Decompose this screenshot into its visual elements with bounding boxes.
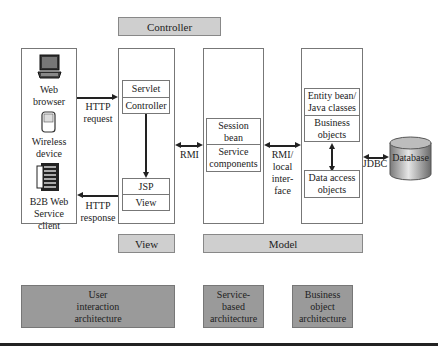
view-box: View <box>122 194 170 211</box>
rmi-label: RMI <box>175 149 204 161</box>
controller-box: Controller <box>122 97 170 114</box>
rmi-local-line4: face <box>264 185 301 197</box>
http-request-line2: request <box>78 113 118 125</box>
jdbc-label: JDBC <box>361 158 389 170</box>
business-objects-box: Business objects <box>304 115 360 142</box>
business-object-architecture-box: Business object architecture <box>292 285 353 328</box>
arrowhead-left-icon <box>77 192 83 198</box>
service-line2: components <box>209 158 257 170</box>
web-view-label: View <box>135 197 156 209</box>
business-arch-line2: object <box>310 301 334 313</box>
bottom-rule <box>0 343 438 346</box>
jsp-label: JSP <box>138 181 153 193</box>
b2b-client-label: B2B Web Service client <box>21 196 77 232</box>
business-arch-line3: architecture <box>299 313 346 325</box>
user-arch-line3: architecture <box>74 313 121 325</box>
view-band: View <box>118 234 175 253</box>
database-label: Database <box>388 152 433 164</box>
arrowhead-left-icon <box>264 142 270 148</box>
wireless-device-icon <box>41 111 57 133</box>
b2b-line1: B2B Web <box>21 196 77 208</box>
session-line2: bean <box>224 132 243 144</box>
service-arch-line2: based <box>222 301 245 313</box>
entity-line1: Entity bean/ <box>308 90 357 102</box>
rmi-arrow <box>181 145 197 147</box>
servlet-box: Servlet <box>122 80 170 98</box>
arrowhead-up-icon <box>329 143 335 149</box>
controller-to-jsp-arrow <box>145 114 147 172</box>
arrowhead-left-icon <box>175 142 181 148</box>
rmi-local-arrow <box>270 145 295 147</box>
business-line1: Business <box>314 117 350 129</box>
wireless-line1: Wireless <box>21 136 77 148</box>
data-access-objects-box: Data access objects <box>304 170 360 198</box>
business-arch-line1: Business <box>305 289 341 301</box>
http-response-arrow <box>83 195 118 197</box>
user-interaction-architecture-box: User interaction architecture <box>21 285 175 328</box>
http-request-label: HTTP request <box>78 101 118 125</box>
user-arch-line1: User <box>89 289 108 301</box>
b2b-line3: client <box>21 220 77 232</box>
http-response-label: HTTP response <box>78 200 118 224</box>
rmi-local-label: RMI/ local inter- face <box>264 149 301 197</box>
web-browser-line1: Web <box>21 84 77 96</box>
wireless-device-label: Wireless device <box>21 136 77 160</box>
rmi-local-line3: inter- <box>264 173 301 185</box>
b2b-line2: Service <box>21 208 77 220</box>
web-controller-label: Controller <box>125 100 166 112</box>
view-band-label: View <box>135 238 158 250</box>
service-line1: Service <box>219 146 249 158</box>
dao-line2: objects <box>318 184 346 196</box>
controller-label: Controller <box>147 21 192 33</box>
model-band: Model <box>203 234 363 253</box>
business-dao-arrow <box>331 149 333 167</box>
http-response-line2: response <box>78 212 118 224</box>
web-browser-label: Web browser <box>21 84 77 108</box>
controller-band: Controller <box>118 17 221 36</box>
http-request-line1: HTTP <box>78 101 118 113</box>
service-arch-line3: architecture <box>210 313 257 325</box>
service-based-architecture-box: Service- based architecture <box>203 285 264 328</box>
web-browser-line2: browser <box>21 96 77 108</box>
session-line1: Session <box>218 120 249 132</box>
entity-bean-box: Entity bean/ Java classes <box>304 88 360 116</box>
http-request-arrow <box>77 97 113 99</box>
laptop-icon <box>37 54 62 80</box>
rmi-local-line2: local <box>264 161 301 173</box>
server-icon <box>36 162 60 192</box>
jsp-box: JSP <box>122 178 170 195</box>
entity-line2: Java classes <box>308 102 356 114</box>
dao-line1: Data access <box>309 172 356 184</box>
wireless-line2: device <box>21 148 77 160</box>
user-arch-line2: interaction <box>77 301 120 313</box>
model-band-label: Model <box>269 238 298 250</box>
business-line2: objects <box>318 129 346 141</box>
http-response-line1: HTTP <box>78 200 118 212</box>
service-arch-line1: Service- <box>217 289 250 301</box>
rmi-local-line1: RMI/ <box>264 149 301 161</box>
service-components-box: Service components <box>206 144 261 172</box>
servlet-label: Servlet <box>132 83 160 95</box>
session-bean-box: Session bean <box>206 118 261 145</box>
